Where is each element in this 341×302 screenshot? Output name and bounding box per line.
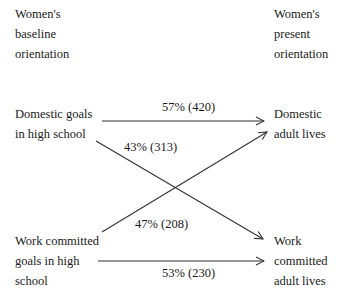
edge-label-47: 47% (208)	[135, 217, 188, 231]
edge-label-43: 43% (313)	[124, 140, 177, 154]
edge-label-57: 57% (420)	[162, 100, 215, 114]
edge-label-53: 53% (230)	[162, 266, 215, 280]
